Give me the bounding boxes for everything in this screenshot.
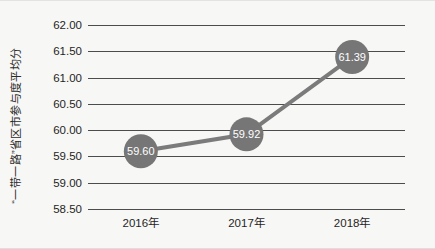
y-axis-tick-label: 60.50 bbox=[36, 98, 82, 110]
plot-area: 59.6059.9261.39 bbox=[88, 25, 405, 209]
gridline bbox=[88, 209, 405, 210]
data-point-marker bbox=[124, 134, 158, 168]
x-axis-tick-label: 2016年 bbox=[123, 214, 160, 230]
y-axis-tick-label: 58.50 bbox=[36, 203, 82, 215]
y-axis-tick-labels: 62.0061.5061.0060.5060.0059.5059.0058.50 bbox=[30, 25, 82, 209]
y-axis-tick-label: 61.50 bbox=[36, 45, 82, 57]
line-series bbox=[88, 25, 405, 209]
data-point-marker bbox=[230, 117, 264, 151]
y-axis-tick-label: 59.50 bbox=[36, 150, 82, 162]
y-axis-tick-label: 60.00 bbox=[36, 124, 82, 136]
x-axis-tick-label: 2017年 bbox=[228, 214, 265, 230]
x-axis-tick-labels: 2016年2017年2018年 bbox=[88, 214, 405, 234]
y-axis-title: “一带一路”省区市参与度平均分 bbox=[0, 1, 30, 249]
y-axis-tick-label: 61.00 bbox=[36, 72, 82, 84]
x-axis-tick-label: 2018年 bbox=[334, 214, 371, 230]
y-axis-tick-label: 62.00 bbox=[36, 19, 82, 31]
data-point-marker bbox=[335, 40, 369, 74]
chart-container: “一带一路”省区市参与度平均分 62.0061.5061.0060.5060.0… bbox=[0, 0, 435, 249]
y-axis-tick-label: 59.00 bbox=[36, 177, 82, 189]
